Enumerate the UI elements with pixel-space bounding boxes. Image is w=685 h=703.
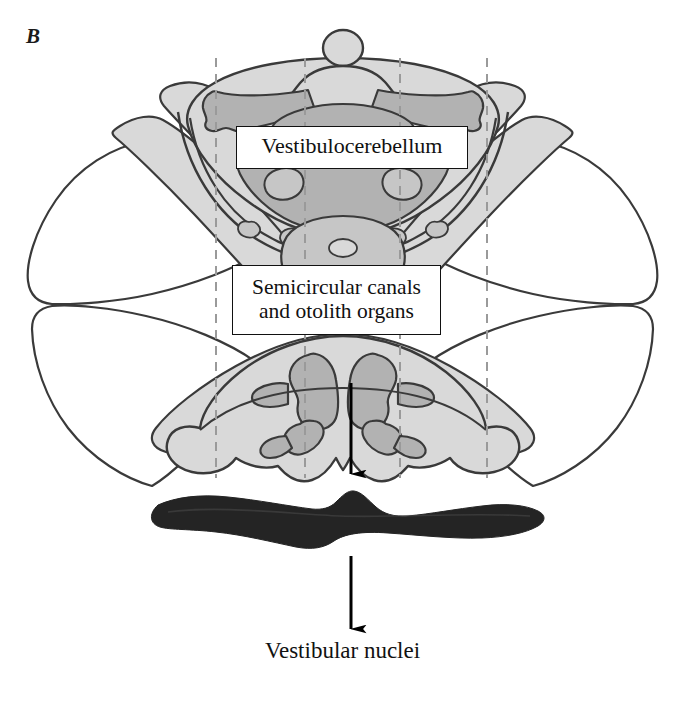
vermis-lobule-left — [264, 168, 303, 200]
mid-nodule-center-hole — [329, 239, 357, 257]
cerebellum-diagram — [0, 0, 685, 703]
callout-vestibulocerebellum: Vestibulocerebellum — [236, 126, 468, 169]
vestibular-nuclei-band-group — [151, 491, 544, 548]
callout-semicircular-canals: Semicircular canals and otolith organs — [232, 265, 441, 335]
apex-nodule-circle — [323, 30, 363, 66]
arc-lobule-right-outer — [426, 221, 448, 237]
callout-vestibulocerebellum-text: Vestibulocerebellum — [262, 134, 443, 159]
callout-semicircular-line1: Semicircular canals — [252, 275, 421, 299]
vermis-lobule-right — [382, 168, 421, 200]
caption-vestibular-nuclei: Vestibular nuclei — [0, 638, 685, 664]
callout-semicircular-line2: and otolith organs — [259, 299, 414, 323]
vestibular-nuclei-band — [151, 491, 544, 548]
figure-panel-b: B — [0, 0, 685, 703]
arc-lobule-left-outer — [238, 221, 260, 237]
